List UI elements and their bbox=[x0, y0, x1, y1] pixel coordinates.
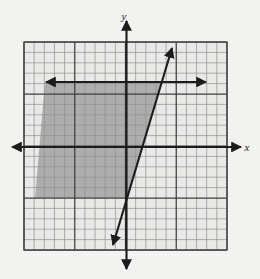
y-axis-label: y bbox=[121, 10, 127, 22]
graph-figure: x y bbox=[0, 0, 260, 279]
coordinate-plane: x y bbox=[0, 0, 260, 279]
x-axis-label: x bbox=[244, 141, 250, 153]
